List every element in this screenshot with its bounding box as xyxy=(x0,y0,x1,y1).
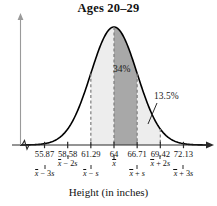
notation-label: x + 2s xyxy=(150,159,170,168)
notation-label: x + 3s xyxy=(174,169,194,178)
annotation-13-5-percent: 13.5% xyxy=(154,91,179,101)
normal-distribution-figure: Ages 20–29 34% 13.5% 55.8758.5861.296466… xyxy=(0,0,217,206)
tick-value-label: 72.13 xyxy=(174,149,193,159)
notation-label: x − 3s xyxy=(35,169,55,178)
notation-label: x − s xyxy=(83,169,99,178)
notation-label: x + s xyxy=(129,169,145,178)
x-axis-caption: Height (in inches) xyxy=(0,186,217,198)
notation-label: x − 2s xyxy=(58,159,78,168)
y-axis-arrow-icon xyxy=(18,13,24,20)
x-axis-arrow-icon xyxy=(206,142,214,149)
notation-label: x xyxy=(112,159,116,168)
annotation-34-percent: 34% xyxy=(113,64,130,74)
tick-value-label: 61.29 xyxy=(81,149,100,159)
tick-value-label: 55.87 xyxy=(35,149,54,159)
tick-value-label: 66.71 xyxy=(127,149,146,159)
